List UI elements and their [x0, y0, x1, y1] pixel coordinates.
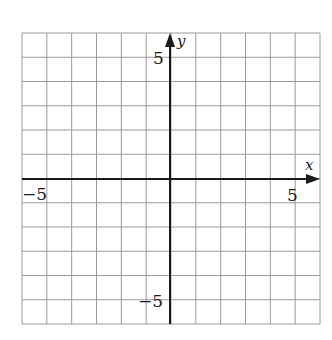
y-axis-arrowhead-icon — [165, 33, 175, 47]
x-tick-label-neg5: −5 — [22, 184, 47, 204]
y-tick-label-neg5: −5 — [138, 291, 163, 311]
x-axis-arrowhead-icon — [306, 174, 320, 184]
y-tick-label-pos5: 5 — [153, 48, 164, 68]
y-axis-label: y — [176, 32, 186, 50]
coordinate-plane: x y −5 5 5 −5 — [0, 0, 332, 340]
x-tick-label-pos5: 5 — [287, 185, 298, 205]
x-axis-label: x — [305, 156, 314, 174]
axes — [22, 33, 320, 324]
